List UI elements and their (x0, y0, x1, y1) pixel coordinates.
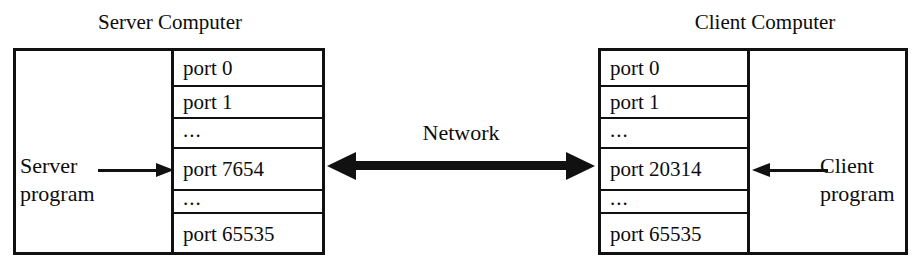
table-row: port 65535 (601, 214, 747, 255)
table-row: ... (174, 191, 322, 214)
server-program-to-port-arrow-icon (98, 160, 174, 180)
arrow-shaft (98, 169, 160, 172)
table-row: ... (174, 119, 322, 149)
arrow-head-right (566, 152, 595, 180)
table-row-active-port: port 20314 (601, 149, 747, 191)
network-bidirectional-arrow-icon (327, 152, 595, 180)
client-program-to-port-arrow-icon (752, 160, 828, 180)
table-row: ... (601, 119, 747, 149)
table-row: port 1 (174, 87, 322, 119)
port-label-ellipsis: ... (183, 120, 202, 141)
port-label-ellipsis: ... (183, 188, 202, 209)
client-program-label: Client program (820, 152, 895, 207)
port-label: port 65535 (183, 224, 275, 245)
server-port-table: port 0 port 1 ... port 7654 ... port 655… (171, 48, 325, 255)
port-label: port 1 (183, 92, 233, 113)
arrow-shaft (353, 161, 569, 170)
client-program-label-line2: program (820, 180, 895, 208)
port-label: port 0 (610, 58, 660, 79)
table-row: port 65535 (174, 214, 322, 255)
port-diagram-canvas: Server Computer Server program port 0 po… (0, 0, 918, 270)
port-label: port 7654 (183, 159, 264, 180)
table-row: port 0 (174, 51, 322, 87)
port-label: port 65535 (610, 224, 702, 245)
client-program-label-line1: Client (820, 152, 895, 180)
arrow-head-left (327, 152, 356, 180)
client-computer-title: Client Computer (635, 12, 895, 33)
client-port-table: port 0 port 1 ... port 20314 ... port 65… (598, 48, 750, 255)
port-label-ellipsis: ... (610, 120, 629, 141)
server-computer-title: Server Computer (40, 12, 300, 33)
port-label: port 1 (610, 92, 660, 113)
server-program-label-line1: Server (20, 152, 95, 180)
port-label: port 0 (183, 58, 233, 79)
arrow-shaft (768, 169, 828, 172)
table-row: port 1 (601, 87, 747, 119)
port-label: port 20314 (610, 159, 702, 180)
table-row: ... (601, 191, 747, 214)
table-row: port 0 (601, 51, 747, 87)
server-program-label-line2: program (20, 180, 95, 208)
server-program-label: Server program (20, 152, 95, 207)
network-label: Network (327, 122, 595, 144)
port-label-ellipsis: ... (610, 188, 629, 209)
table-row-active-port: port 7654 (174, 149, 322, 191)
